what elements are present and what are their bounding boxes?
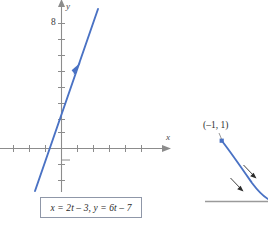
x-axis-label: x [166, 133, 170, 142]
parametric-line [35, 9, 98, 191]
parametric-line-plot [35, 9, 98, 191]
decaying-curve [222, 141, 268, 199]
left-panel-axes [0, 0, 171, 192]
equation-text: x = 2t – 3, y = 6t – 7 [51, 203, 132, 213]
curve-direction-arrow-2 [231, 178, 244, 192]
y-axis-label: y [66, 2, 70, 11]
y-axis-arrowhead [58, 0, 65, 7]
figure-canvas: y x 8 (–1, 1) x = 2t – 3, y = 6t – 7 [0, 0, 268, 226]
right-panel-plot [205, 133, 268, 202]
x-axis-arrowhead [162, 145, 171, 152]
curve-direction-arrow-1 [244, 165, 257, 179]
curve-point-label: (–1, 1) [203, 121, 228, 131]
equation-box: x = 2t – 3, y = 6t – 7 [40, 197, 142, 218]
figure-vector-layer [0, 0, 268, 226]
curve-start-point-marker [220, 139, 224, 143]
y-axis-tick-label-8: 8 [51, 18, 56, 28]
point-label-leader [219, 133, 222, 139]
